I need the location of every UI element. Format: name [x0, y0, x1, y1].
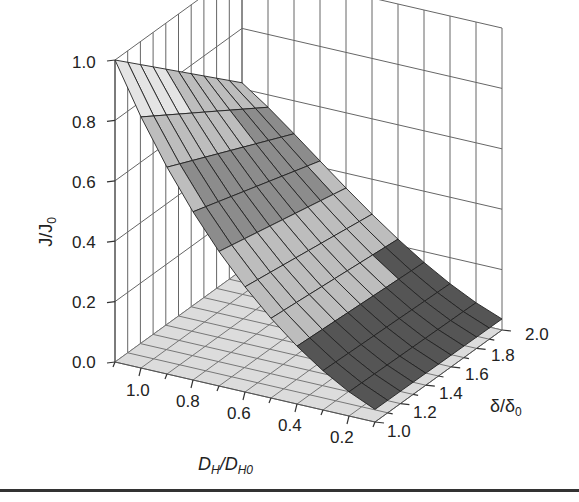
z-tick: 0.0 [72, 353, 96, 372]
x-tick: 0.8 [176, 392, 200, 411]
x-axis-title: DH/DH0 [198, 454, 253, 477]
z-axis-tick-labels: 0.0 0.2 0.4 0.6 0.8 1.0 [72, 53, 96, 372]
x-tick: 0.4 [278, 416, 302, 435]
bottom-rule [0, 489, 579, 492]
x-tick: 1.0 [126, 381, 150, 400]
z-tick: 1.0 [72, 53, 96, 72]
y-tick: 1.6 [465, 365, 489, 384]
surface-plot: 0.0 0.2 0.4 0.6 0.8 1.0 1.0 0.8 0.6 0.4 … [0, 0, 579, 502]
x-tick: 0.6 [227, 404, 251, 423]
z-axis-title: J/J0 [36, 217, 59, 247]
z-tick: 0.4 [72, 233, 96, 252]
y-tick: 1.0 [387, 422, 411, 441]
y-tick: 1.2 [413, 403, 437, 422]
z-tick: 0.2 [72, 293, 96, 312]
x-tick: 0.2 [330, 428, 354, 447]
y-tick: 1.4 [439, 384, 463, 403]
z-tick: 0.8 [72, 113, 96, 132]
z-tick: 0.6 [72, 173, 96, 192]
y-tick: 2.0 [525, 325, 549, 344]
y-tick: 1.8 [491, 346, 515, 365]
y-axis-title: δ/δ0 [490, 396, 522, 419]
